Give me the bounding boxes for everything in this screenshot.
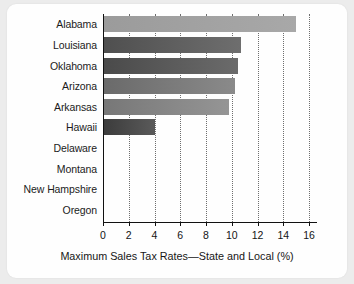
gridline	[283, 14, 284, 222]
x-axis-tick	[309, 222, 310, 226]
x-axis-tick	[103, 222, 104, 226]
x-axis-tick	[180, 222, 181, 226]
bar	[103, 78, 235, 94]
category-label-montana: Montana	[5, 164, 97, 175]
x-axis-tick	[283, 222, 284, 226]
category-label-arkansas: Arkansas	[5, 102, 97, 113]
chart-card: AlabamaLouisianaOklahomaArizonaArkansasH…	[7, 4, 347, 278]
x-tick-label: 2	[126, 230, 132, 241]
category-label-louisiana: Louisiana	[5, 40, 97, 51]
x-tick-label: 16	[303, 230, 315, 241]
x-axis-tick	[232, 222, 233, 226]
bar	[103, 16, 296, 32]
x-axis-tick	[129, 222, 130, 226]
gridline	[258, 14, 259, 222]
x-tick-label: 4	[152, 230, 158, 241]
category-label-hawaii: Hawaii	[5, 122, 97, 133]
bar	[103, 37, 241, 53]
x-axis-tick	[258, 222, 259, 226]
x-axis-line	[103, 222, 317, 223]
x-axis-tick	[206, 222, 207, 226]
gridline	[309, 14, 310, 222]
x-tick-label: 12	[252, 230, 264, 241]
bar-chart: AlabamaLouisianaOklahomaArizonaArkansasH…	[7, 4, 347, 278]
bar	[103, 58, 238, 74]
x-tick-label: 14	[277, 230, 289, 241]
category-label-delaware: Delaware	[5, 143, 97, 154]
x-axis-title: Maximum Sales Tax Rates—State and Local …	[7, 250, 347, 262]
x-tick-label: 6	[177, 230, 183, 241]
category-label-new-hampshire: New Hampshire	[5, 184, 97, 195]
category-label-oklahoma: Oklahoma	[5, 61, 97, 72]
category-label-oregon: Oregon	[5, 205, 97, 216]
bar	[103, 99, 229, 115]
x-axis-tick	[155, 222, 156, 226]
bar	[103, 119, 155, 135]
category-label-alabama: Alabama	[5, 19, 97, 30]
x-tick-label: 10	[226, 230, 238, 241]
x-tick-label: 0	[100, 230, 106, 241]
x-tick-label: 8	[203, 230, 209, 241]
category-label-arizona: Arizona	[5, 81, 97, 92]
y-axis-line	[103, 14, 104, 222]
